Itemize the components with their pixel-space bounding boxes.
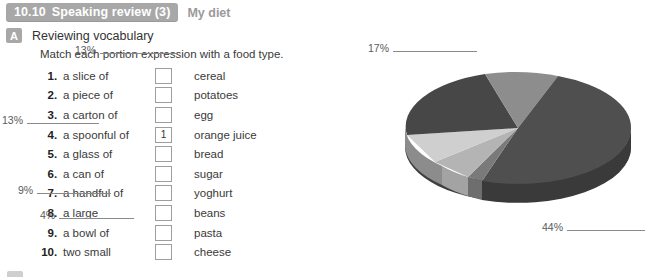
section-a-heading: A Reviewing vocabulary (6, 28, 154, 43)
worksheet-page: 10.10 Speaking review (3) My diet A Revi… (0, 0, 655, 277)
list-item-number: 2 (32, 89, 54, 101)
food-type: potatoes (194, 89, 238, 101)
portion-expression: a spoonful of (61, 129, 155, 141)
list-item-dot: . (54, 89, 61, 101)
pie-callout-4-value: 4% (40, 210, 55, 221)
answer-box[interactable] (155, 107, 172, 123)
pie-chart: 17% 13% 13% 9% 4% 44% (300, 30, 655, 245)
answer-box[interactable]: 1 (155, 127, 172, 143)
list-item-dot: . (54, 168, 61, 180)
food-type: orange juice (194, 129, 257, 141)
pie-callout-13b-blank[interactable] (27, 123, 99, 124)
food-type: sugar (194, 168, 223, 180)
pie-callout-9: 9% (18, 185, 111, 196)
answer-box[interactable] (155, 185, 172, 201)
pie-callout-17: 17% (368, 43, 477, 54)
page-header: 10.10 Speaking review (3) My diet (6, 3, 230, 22)
pie-callout-13b: 13% (2, 115, 99, 126)
section-title: Reviewing vocabulary (32, 29, 154, 43)
list-item-dot: . (54, 70, 61, 82)
pie-callout-9-value: 9% (18, 185, 33, 196)
pie-callout-13b-value: 13% (2, 115, 23, 126)
list-item: 2.a piece ofpotatoes (32, 86, 257, 106)
pie-callout-13a-blank[interactable] (100, 53, 178, 54)
list-item-dot: . (54, 129, 61, 141)
answer-box[interactable] (155, 68, 172, 84)
unit-title: Speaking review (3) (52, 5, 171, 19)
list-item: 4.a spoonful of1orange juice (32, 125, 257, 145)
food-type: cheese (194, 246, 231, 258)
portion-expression: a glass of (61, 148, 155, 160)
matching-list: 1.a slice ofcereal2.a piece ofpotatoes3.… (32, 66, 257, 262)
pie-callout-44-blank[interactable] (567, 230, 645, 231)
food-type: bread (194, 148, 223, 160)
list-item-dot: . (54, 227, 61, 239)
list-item: 10.two smallcheese (32, 242, 257, 262)
answer-box[interactable] (155, 87, 172, 103)
list-item: 9.a bowl ofpasta (32, 223, 257, 243)
answer-box[interactable] (155, 205, 172, 221)
pie-callout-9-blank[interactable] (37, 193, 111, 194)
section-letter-badge: A (6, 28, 22, 43)
list-item-number: 6 (32, 168, 54, 180)
answer-box[interactable] (155, 146, 172, 162)
list-item-dot: . (54, 246, 61, 258)
list-item-number: 1 (32, 70, 54, 82)
food-type: egg (194, 109, 213, 121)
pie-chart-graphic (300, 30, 655, 245)
list-item-number: 10 (32, 246, 54, 258)
list-item-number: 4 (32, 129, 54, 141)
pie-callout-13a-value: 13% (75, 45, 96, 56)
food-type: pasta (194, 227, 222, 239)
portion-expression: a can of (61, 168, 155, 180)
unit-number: 10.10 (14, 5, 46, 19)
pie-callout-44: 44% (542, 222, 645, 233)
food-type: beans (194, 207, 225, 219)
list-item-dot: . (54, 148, 61, 160)
answer-box[interactable] (155, 225, 172, 241)
portion-expression: two small (61, 246, 155, 258)
pie-callout-13a: 13% (75, 45, 178, 56)
portion-expression: a slice of (61, 70, 155, 82)
unit-badge: 10.10 Speaking review (3) (6, 3, 178, 22)
portion-expression: a piece of (61, 89, 155, 101)
list-item: 6.a can ofsugar (32, 164, 257, 184)
food-type: cereal (194, 70, 225, 82)
list-item-number: 5 (32, 148, 54, 160)
pie-callout-4: 4% (40, 210, 134, 221)
portion-expression: a bowl of (61, 227, 155, 239)
pie-callout-17-value: 17% (368, 43, 389, 54)
list-item: 5.a glass ofbread (32, 144, 257, 164)
next-section-badge-cutoff (7, 271, 23, 277)
pie-callout-17-blank[interactable] (393, 51, 477, 52)
pie-callout-4-blank[interactable] (59, 218, 134, 219)
food-type: yoghurt (194, 187, 232, 199)
answer-box[interactable] (155, 244, 172, 260)
answer-box[interactable] (155, 166, 172, 182)
list-item-number: 9 (32, 227, 54, 239)
pie-callout-44-value: 44% (542, 222, 563, 233)
list-item: 1.a slice ofcereal (32, 66, 257, 86)
topic-title: My diet (187, 6, 230, 20)
